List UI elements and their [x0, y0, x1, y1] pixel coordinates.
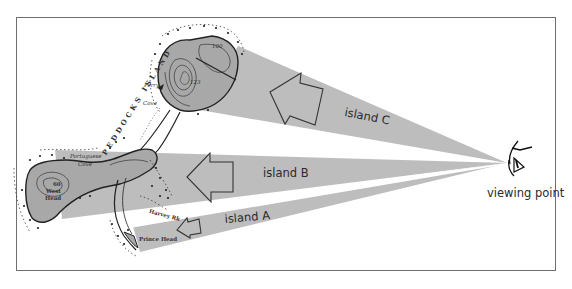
viewing-cones [55, 46, 507, 252]
map-label-portuguese-cove: Cove [78, 161, 92, 167]
island-viewing-diagram: Perry Cove Portuguese Cove 60 West Head … [0, 0, 572, 289]
map-label-perry-cove: Cove [143, 100, 157, 106]
map-label-elev-100: 100 [212, 43, 223, 49]
cone-island-c [200, 46, 507, 163]
map-label-west-head: Head [45, 195, 61, 201]
label-island-b: island B [263, 166, 309, 180]
label-viewing-point: viewing point [487, 186, 564, 200]
eye-icon [509, 141, 532, 176]
map-label-prince-head: Prince Head [139, 236, 177, 242]
map-label-west: West [46, 188, 61, 194]
map-label-portuguese: Portuguese [70, 153, 102, 159]
map-label-elev-123: 123 [190, 79, 201, 85]
diagram-graphics [0, 0, 572, 289]
map-label-west-head-elev: 60 [53, 181, 61, 187]
